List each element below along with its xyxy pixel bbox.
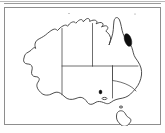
shaded-area-southeast	[99, 90, 102, 94]
australia-map-svg	[5, 8, 162, 126]
map-frame: Outline map of Australia showing state b…	[4, 7, 161, 125]
top-rule-secondary	[4, 3, 161, 4]
scan-speck-1	[69, 13, 70, 14]
island-kangaroo	[102, 97, 107, 99]
top-rule-primary	[0, 1, 165, 2]
figure-root: Outline map of Australia showing state b…	[0, 0, 165, 133]
island-bass-strait	[119, 106, 122, 108]
scan-speck-2	[135, 14, 136, 15]
tasmania-outline	[116, 111, 130, 126]
mainland-outline	[24, 18, 142, 105]
